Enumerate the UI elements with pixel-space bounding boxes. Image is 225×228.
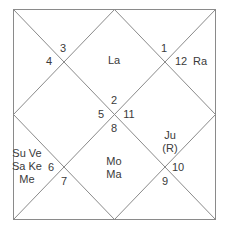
house-number-9: 9: [162, 175, 168, 188]
planet-label: La: [108, 54, 120, 67]
house-number-7: 7: [61, 175, 67, 188]
house-number-2: 2: [111, 94, 117, 107]
house-number-12: 12: [175, 55, 187, 68]
planet-label: Me: [12, 173, 42, 186]
planet-label: Sa Ke: [12, 160, 42, 173]
planet-label: (R): [162, 142, 177, 155]
house-number-4: 4: [46, 55, 52, 68]
house-number-11: 11: [123, 108, 134, 121]
planets-house7: Su VeSa KeMe: [12, 147, 42, 186]
planets-house1: La: [108, 54, 120, 67]
house-number-8: 8: [111, 122, 117, 135]
planets-house8: MoMa: [106, 155, 121, 181]
planet-label: Ma: [106, 168, 121, 181]
house-number-6: 6: [48, 161, 54, 174]
planet-label: Su Ve: [12, 147, 42, 160]
planets-house12: Ra: [193, 55, 207, 68]
house-number-3: 3: [60, 42, 66, 55]
planets-house11: Ju(R): [162, 129, 177, 155]
house-number-10: 10: [172, 161, 184, 174]
house-number-5: 5: [98, 108, 104, 121]
planet-label: Ju: [162, 129, 177, 142]
planet-label: Mo: [106, 155, 121, 168]
planet-label: Ra: [193, 55, 207, 68]
house-number-1: 1: [161, 42, 167, 55]
kundali-chart: [0, 0, 225, 228]
